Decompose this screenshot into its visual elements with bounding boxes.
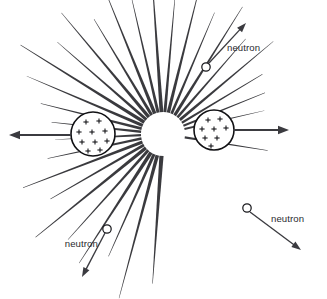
energy-ray-13 <box>20 45 145 124</box>
energy-ray-23 <box>173 7 242 117</box>
neutron-bottom-left: neutron <box>65 225 111 277</box>
energy-ray-15 <box>61 13 150 118</box>
energy-ray-5 <box>35 147 147 238</box>
neutron-bottom-right: neutron <box>243 204 304 250</box>
neutron-bottom-right-arrow-head <box>291 242 301 250</box>
neutron-bottom-right-label: neutron <box>271 213 304 224</box>
energy-ray-0 <box>152 156 163 284</box>
neutron-top-right-particle <box>202 63 210 71</box>
neutron-bottom-right-particle <box>243 204 251 212</box>
energy-ray-16 <box>94 19 153 116</box>
neutron-bottom-left-arrow-head <box>82 267 89 277</box>
fission-diagram: neutronneutronneutron <box>0 0 327 299</box>
neutron-bottom-left-particle <box>103 225 111 233</box>
neutron-top-right: neutron <box>202 23 260 71</box>
fission-diagram-canvas: neutronneutronneutron <box>0 0 327 299</box>
neutron-bottom-left-label: neutron <box>65 238 98 249</box>
neutron-top-right-label: neutron <box>227 42 260 53</box>
left-nucleus-fragment <box>9 112 115 156</box>
right-fragment-arrow-head <box>278 126 289 135</box>
left-nucleus-fragment-outline <box>71 112 115 156</box>
left-fragment-arrow-head <box>9 131 20 140</box>
